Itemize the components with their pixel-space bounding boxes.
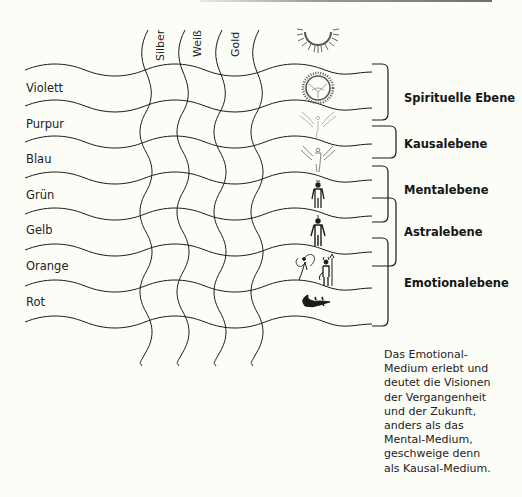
plane-label-astralebene: Astralebene — [404, 225, 482, 239]
radiant-sun-with-dove-icon — [303, 73, 333, 103]
row-label-blau: Blau — [26, 152, 51, 166]
caption-text: Das Emotional- Medium erlebt und deutet … — [384, 348, 514, 476]
row-label-purpur: Purpur — [26, 117, 64, 131]
plane-label-kausalebene: Kausalebene — [404, 137, 487, 151]
h-wave-2 — [25, 100, 372, 112]
column-label-silber: Silber — [155, 30, 167, 61]
human-figure-icon — [311, 215, 325, 246]
radiant-half-sun-icon — [297, 29, 339, 53]
plane-label-emotionalebene: Emotionalebene — [404, 276, 509, 290]
column-label-gold: Gold — [230, 32, 242, 57]
bracket-mentalebene — [372, 166, 388, 222]
h-wave-3 — [25, 136, 372, 148]
row-label-gelb: Gelb — [26, 223, 52, 237]
winged-angel-faint-icon — [300, 112, 336, 139]
winged-angel-figure-icon — [301, 146, 335, 172]
h-wave-8 — [25, 316, 372, 328]
v-wave-3 — [214, 30, 226, 366]
fairy-and-devil-figures-icon — [296, 254, 334, 286]
caption-line: deutet die Visionen — [384, 376, 514, 390]
bracket-emotionalebene — [372, 238, 388, 326]
h-wave-7 — [25, 280, 372, 292]
row-label-orange: Orange — [26, 259, 69, 273]
vertical-waves — [140, 30, 263, 366]
h-wave-5 — [25, 208, 372, 220]
plane-label-spirituelle-ebene: Spirituelle Ebene — [404, 91, 515, 105]
bracket-astralebene — [372, 198, 396, 266]
row-label-violett: Violett — [26, 81, 63, 95]
lizard-icon — [303, 295, 330, 307]
caption-line: Medium erlebt und — [384, 362, 514, 376]
h-wave-4 — [25, 172, 372, 184]
v-wave-1 — [140, 30, 152, 366]
row-label-rot: Rot — [26, 295, 45, 309]
h-wave-6 — [25, 244, 372, 256]
plane-brackets — [372, 64, 396, 326]
bracket-kausalebene — [372, 126, 396, 158]
caption-line: anders als das — [384, 419, 514, 433]
bracket-spirituelle-ebene — [372, 64, 388, 120]
caption-line: und der Zukunft, — [384, 405, 514, 419]
caption-line: der Vergangenheit — [384, 391, 514, 405]
column-label-weiss: Weiß — [192, 30, 204, 57]
h-wave-1 — [25, 64, 372, 76]
caption-line: Das Emotional- — [384, 348, 514, 362]
human-figure-with-halo-icon — [312, 181, 324, 208]
row-label-gruen: Grün — [26, 188, 54, 202]
caption-line: als Kausal-Medium. — [384, 462, 514, 476]
plane-label-mentalebene: Mentalebene — [404, 183, 488, 197]
caption-line: geschweige denn — [384, 447, 514, 461]
v-wave-4 — [251, 30, 263, 366]
horizontal-waves — [25, 64, 372, 328]
caption-line: Mental-Medium, — [384, 433, 514, 447]
